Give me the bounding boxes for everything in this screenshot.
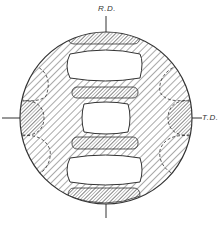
top-cap <box>68 30 140 44</box>
lower-bar <box>72 137 138 149</box>
pole-figure <box>0 0 222 226</box>
lower-void <box>67 155 142 185</box>
rd-label: R.D. <box>98 4 116 13</box>
center-void <box>82 102 130 134</box>
pole-figure-svg <box>0 0 222 226</box>
upper-void <box>67 50 142 81</box>
upper-bar <box>72 87 138 98</box>
td-label: T.D. <box>202 113 218 122</box>
